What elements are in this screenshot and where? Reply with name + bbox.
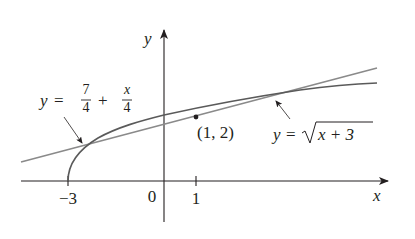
tangent-label-lhs: y (38, 91, 48, 110)
x-tick-label-1: 1 (192, 189, 201, 208)
tangent-frac2-den: 4 (124, 100, 131, 115)
tangent-equation-label: y = 7 4 + x 4 (38, 82, 132, 115)
tangent-frac1-den: 4 (83, 100, 90, 115)
tangent-label-plus: + (98, 91, 108, 110)
sqrt-label-pointer (276, 101, 290, 119)
sqrt-radicand: x + 3 (317, 125, 354, 144)
sqrt-radicand-text: x + 3 (317, 125, 354, 144)
point-label: (1, 2) (197, 123, 234, 142)
tangent-frac2-num: x (123, 82, 131, 97)
sqrt-label-lhs: y (271, 125, 281, 144)
y-axis-label: y (142, 29, 152, 48)
sqrt-equation-label: y = x + 3 (271, 122, 373, 144)
x-tick-label-neg3: −3 (59, 189, 77, 208)
graph-canvas: y x −3 0 1 (1, 2) y = 7 4 + x 4 y = x + … (0, 0, 415, 239)
tangent-point (194, 115, 199, 120)
tangent-frac1-num: 7 (83, 82, 90, 97)
tangent-line (21, 68, 377, 162)
origin-label: 0 (148, 187, 157, 206)
x-axis-label: x (372, 186, 381, 205)
sqrt-label-eq: = (286, 125, 296, 144)
tangent-label-pointer (64, 117, 82, 143)
tangent-label-eq: = (54, 91, 64, 110)
